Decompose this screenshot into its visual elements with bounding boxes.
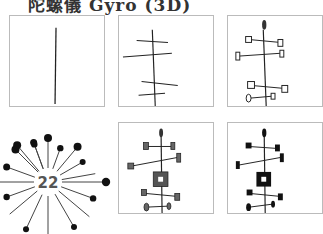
bar-end	[282, 85, 288, 92]
starburst-dot	[102, 178, 110, 186]
center-square-inner	[158, 177, 163, 182]
bar-end	[275, 145, 280, 152]
cross-bar	[123, 53, 172, 57]
starburst-dot	[71, 224, 77, 230]
bar-end	[167, 203, 171, 210]
bar-end	[144, 203, 149, 211]
step-3-drawing	[228, 16, 322, 106]
bar-end	[171, 143, 175, 150]
bar-end	[280, 50, 284, 57]
bar-end	[246, 37, 252, 43]
cross-bar	[239, 157, 282, 165]
cross-bar	[249, 146, 277, 148]
cross-bar	[250, 96, 273, 98]
bar-end	[128, 163, 134, 169]
starburst-ray	[55, 194, 74, 227]
cross-bar	[252, 85, 284, 88]
starburst-ray	[7, 187, 35, 197]
starburst-dot	[57, 145, 63, 151]
starburst-badge: 22	[0, 128, 100, 224]
bar-end	[271, 93, 275, 99]
starburst-ray	[26, 195, 42, 229]
step-6-drawing	[228, 123, 322, 213]
top-tip	[262, 128, 266, 137]
step-1-panel	[9, 15, 105, 107]
bar-end	[278, 193, 283, 200]
cross-bar	[239, 53, 282, 56]
step-5-panel	[118, 122, 214, 214]
starburst-ray	[7, 167, 35, 177]
top-tip	[262, 20, 266, 30]
bar-end	[142, 190, 147, 196]
cross-bar	[132, 157, 179, 166]
bar-end	[247, 190, 253, 196]
starburst-dot	[80, 159, 86, 165]
bar-end	[175, 193, 180, 200]
starburst-ray	[15, 149, 38, 172]
cross-bar	[145, 193, 176, 196]
step-3-panel	[227, 15, 323, 107]
starburst-dot	[31, 141, 37, 147]
starburst-dot	[3, 194, 9, 200]
starburst-dot	[3, 163, 10, 170]
starburst-ray	[34, 144, 43, 168]
step-1-drawing	[10, 16, 104, 106]
top-tip	[159, 128, 163, 137]
starburst-dot	[44, 134, 52, 142]
bar-end	[246, 94, 251, 102]
bar-end	[248, 82, 255, 89]
starburst-dot	[74, 143, 82, 151]
badge-number: 22	[38, 174, 59, 192]
bar-end	[246, 143, 252, 149]
step-2-panel	[118, 15, 214, 107]
bar-end	[280, 153, 284, 162]
starburst-ray	[62, 174, 95, 180]
center-square-inner	[261, 177, 266, 182]
starburst-dot	[90, 195, 96, 201]
step-2-drawing	[119, 16, 213, 106]
step-6-panel	[227, 122, 323, 214]
cross-bar	[139, 93, 165, 95]
step-5-drawing	[119, 123, 213, 213]
cross-bar	[250, 204, 273, 207]
bar-end	[236, 52, 240, 60]
cross-bar	[142, 82, 178, 86]
bar-end	[236, 161, 240, 169]
page-title: 陀螺儀 Gyro (3D)	[28, 0, 191, 16]
bar-end	[271, 201, 275, 208]
bar-end	[278, 39, 283, 46]
cross-bar	[146, 206, 168, 207]
starburst-dot	[13, 141, 21, 149]
bar-end	[177, 153, 181, 162]
starburst-ray	[53, 148, 61, 169]
bar-end	[246, 203, 251, 211]
bar-end	[144, 143, 149, 150]
stem-line	[55, 28, 56, 104]
starburst-dot	[23, 226, 29, 232]
